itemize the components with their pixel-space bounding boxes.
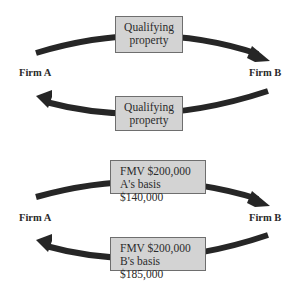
qualifying-property-box-top: Qualifying property: [115, 16, 183, 53]
firm-b-property-values-box: FMV $200,000 B's basis $185,000: [110, 237, 206, 271]
firm-a-label: Firm A: [19, 212, 51, 223]
firm-a-property-values-box: FMV $200,000 A's basis $140,000: [110, 160, 206, 194]
firm-b-label: Firm B: [249, 212, 281, 223]
fmv-line: FMV $200,000: [120, 242, 205, 255]
qualifying-property-box-bottom: Qualifying property: [115, 96, 183, 131]
box-line: property: [116, 34, 182, 47]
firm-a-label: Firm A: [19, 67, 51, 78]
box-line: Qualifying: [116, 21, 182, 34]
basis-line: A's basis $140,000: [120, 178, 205, 204]
basis-line: B's basis $185,000: [120, 255, 205, 281]
box-line: Qualifying: [116, 101, 182, 114]
firm-b-label: Firm B: [249, 67, 281, 78]
box-line: property: [116, 114, 182, 127]
fmv-line: FMV $200,000: [120, 165, 205, 178]
